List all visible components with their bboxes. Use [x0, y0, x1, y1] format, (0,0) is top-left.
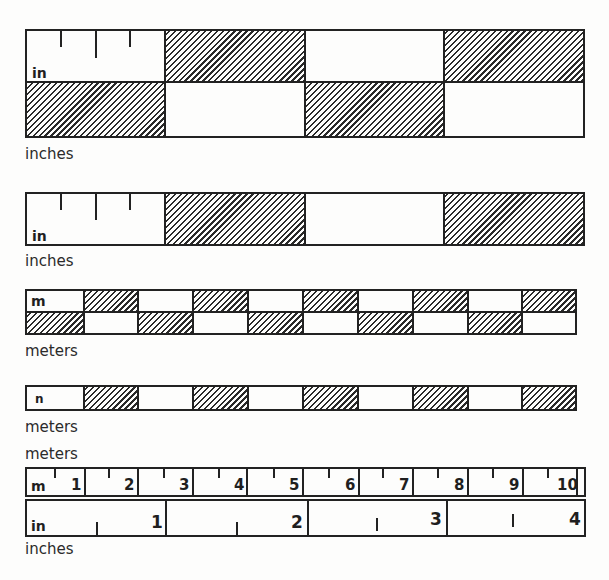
meter-tick: [547, 469, 549, 478]
meter-seg-line: [522, 467, 524, 497]
meter-number: 8: [454, 478, 464, 493]
meter-tick: [54, 469, 56, 478]
meter-number: 1: [71, 478, 81, 493]
ruler-2-hatch-1: [165, 194, 305, 244]
ruler-1-tick: [129, 31, 131, 47]
meter-number: 9: [509, 478, 519, 493]
ruler-3-seg-line: [302, 289, 304, 335]
inch-seg-line: [307, 499, 309, 537]
inch-number: 2: [291, 515, 303, 530]
ruler-4-seg-line: [192, 385, 194, 411]
ruler-4-seg-line: [357, 385, 359, 411]
ruler-1-caption: inches: [25, 146, 73, 162]
meter-tick: [218, 469, 220, 478]
ruler-3-caption: meters: [25, 343, 78, 359]
ruler-4-seg-line: [521, 385, 523, 411]
inch-seg-line: [446, 499, 448, 537]
combined-inch-unit-label: in: [31, 519, 46, 533]
ruler-2-tick: [129, 194, 131, 210]
meter-seg-line: [192, 467, 194, 497]
ruler-2-unit-label: in: [32, 229, 47, 243]
ruler-4-seg-line: [302, 385, 304, 411]
ruler-4-seg-line: [137, 385, 139, 411]
ruler-4-hatch: [522, 387, 575, 409]
ruler-2-seg-line: [304, 192, 306, 246]
meter-seg-line: [137, 467, 139, 497]
meter-number: 3: [179, 478, 189, 493]
ruler-1-bottom-hatch-2: [305, 83, 444, 136]
meter-tick: [163, 469, 165, 478]
meter-number: 2: [124, 478, 134, 493]
meter-tick: [273, 469, 275, 478]
ruler-1-tick: [60, 31, 62, 47]
ruler-1-top-hatch-2: [444, 31, 583, 81]
ruler-3-seg-line: [247, 289, 249, 335]
meter-number: 4: [234, 478, 244, 493]
meter-number: 7: [399, 478, 409, 493]
ruler-4-seg-line: [412, 385, 414, 411]
meter-number: 5: [289, 478, 299, 493]
ruler-3-bottom-hatch: [27, 313, 83, 333]
ruler-3-bottom-hatch: [358, 313, 412, 333]
ruler-3-top-hatch: [413, 291, 467, 311]
combined-top-caption: meters: [25, 446, 78, 462]
ruler-3-top-hatch: [84, 291, 138, 311]
inch-number: 4: [569, 512, 581, 527]
ruler-3-seg-line: [467, 289, 469, 335]
ruler-3-unit-label: m: [31, 294, 46, 308]
ruler-2-caption: inches: [25, 253, 73, 269]
meter-tick: [437, 469, 439, 478]
ruler-1-tick: [95, 31, 97, 58]
ruler-1-seg-line: [443, 29, 445, 138]
ruler-3-bottom-hatch: [467, 313, 521, 333]
inch-half-tick: [236, 522, 238, 535]
meter-seg-line: [412, 467, 414, 497]
ruler-4-hatch: [193, 387, 247, 409]
inch-number: 3: [430, 512, 442, 527]
ruler-3-top-hatch: [193, 291, 247, 311]
ruler-3-seg-line: [192, 289, 194, 335]
meter-seg-line: [358, 467, 360, 497]
inch-half-tick: [512, 514, 514, 527]
ruler-4-hatch: [413, 387, 467, 409]
ruler-3-seg-line: [137, 289, 139, 335]
ruler-2-tick: [95, 194, 97, 220]
inch-number: 1: [151, 515, 163, 530]
meter-number: 6: [345, 478, 355, 493]
meter-tick: [108, 469, 110, 478]
meter-seg-line: [467, 467, 469, 497]
meter-seg-line: [302, 467, 304, 497]
ruler-4-hatch: [303, 387, 357, 409]
ruler-2-seg-line: [164, 192, 166, 246]
combined-bottom-caption: inches: [25, 541, 73, 557]
ruler-3-seg-line: [521, 289, 523, 335]
ruler-3-seg-line: [83, 289, 85, 335]
ruler-4-hatch: [84, 387, 138, 409]
ruler-1-seg-line: [304, 29, 306, 138]
ruler-3-bottom-hatch: [248, 313, 302, 333]
ruler-1-bottom-hatch-1: [27, 83, 165, 136]
meter-tick: [492, 469, 494, 478]
meter-tick: [382, 469, 384, 478]
combined-inch-row-frame: [25, 499, 586, 537]
ruler-1-top-hatch-1: [165, 31, 305, 81]
ruler-3-seg-line: [412, 289, 414, 335]
ruler-1-seg-line: [164, 29, 166, 138]
meter-number: 10: [557, 478, 578, 493]
ruler-4-unit-label: n: [35, 392, 44, 406]
ruler-3-seg-line: [357, 289, 359, 335]
meter-tick: [328, 469, 330, 478]
inch-seg-line: [165, 499, 167, 537]
ruler-2-seg-line: [443, 192, 445, 246]
ruler-2-tick: [60, 194, 62, 210]
combined-meter-unit-label: m: [31, 479, 46, 493]
ruler-4-seg-line: [467, 385, 469, 411]
meter-seg-line: [246, 467, 248, 497]
ruler-4-seg-line: [247, 385, 249, 411]
ruler-2-hatch-2: [444, 194, 583, 244]
inch-half-tick: [96, 522, 98, 535]
ruler-3-top-hatch: [303, 291, 357, 311]
ruler-1-unit-label: in: [32, 66, 47, 80]
ruler-4-seg-line: [83, 385, 85, 411]
inch-half-tick: [376, 518, 378, 531]
